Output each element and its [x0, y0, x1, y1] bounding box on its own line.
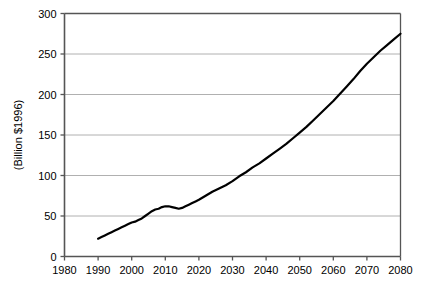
chart-figure: 0501001502002503001980199020002010202020… — [0, 0, 428, 289]
x-axis-tick-label: 1990 — [86, 264, 110, 276]
x-axis-tick-label: 2050 — [287, 264, 311, 276]
x-axis-tick-label: 2080 — [388, 264, 412, 276]
y-axis-tick-label: 50 — [44, 210, 56, 222]
x-axis-tick-label: 2000 — [119, 264, 143, 276]
y-axis-tick-label: 250 — [38, 48, 56, 60]
y-axis-tick-label: 100 — [38, 170, 56, 182]
x-axis-tick-label: 1980 — [52, 264, 76, 276]
x-axis-tick-label: 2040 — [254, 264, 278, 276]
x-axis-tick-label: 2070 — [355, 264, 379, 276]
x-axis-tick-label: 2010 — [153, 264, 177, 276]
chart-svg: 0501001502002503001980199020002010202020… — [0, 0, 428, 289]
y-axis-tick-label: 150 — [38, 129, 56, 141]
x-axis-tick-label: 2030 — [220, 264, 244, 276]
data-series-line — [98, 34, 400, 239]
y-axis-tick-label: 200 — [38, 89, 56, 101]
y-axis-title: (Billion $1996) — [12, 100, 24, 170]
x-axis-tick-label: 2060 — [321, 264, 345, 276]
x-axis-tick-label: 2020 — [187, 264, 211, 276]
y-axis-tick-label: 300 — [38, 8, 56, 20]
y-axis-tick-label: 0 — [50, 251, 56, 263]
